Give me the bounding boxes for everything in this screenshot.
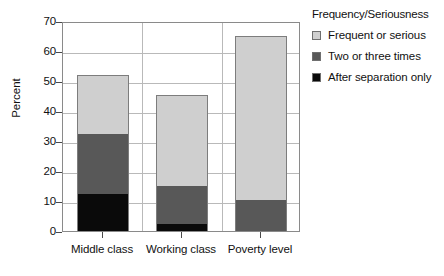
- bar-middle-class: [77, 21, 129, 231]
- y-tick-label: 10: [12, 196, 56, 208]
- y-tick-label: 20: [12, 166, 56, 178]
- y-tick-label: 50: [12, 76, 56, 88]
- legend-items: Frequent or seriousTwo or three timesAft…: [312, 29, 444, 83]
- legend-item: After separation only: [312, 71, 444, 83]
- y-tick-mark: [56, 232, 62, 233]
- y-tick-label: 70: [12, 16, 56, 28]
- bar-segment: [235, 36, 287, 200]
- y-tick-label: 40: [12, 106, 56, 118]
- legend-label: Two or three times: [328, 50, 421, 62]
- bar-segment: [77, 194, 129, 232]
- bar-segment: [235, 200, 287, 232]
- y-tick-label: 0: [12, 226, 56, 238]
- x-tick-mark: [102, 232, 103, 238]
- legend-label: Frequent or serious: [328, 29, 426, 41]
- bar-working-class: [156, 21, 208, 231]
- category-separator: [222, 23, 223, 231]
- y-tick-label: 60: [12, 46, 56, 58]
- legend-item: Two or three times: [312, 50, 444, 62]
- bar-chart: Percent 010203040506070 Middle classWork…: [0, 0, 444, 276]
- y-tick-label: 30: [12, 136, 56, 148]
- bar-poverty-level: [235, 21, 287, 231]
- legend: Frequency/Seriousness Frequent or seriou…: [312, 8, 444, 92]
- category-separator: [142, 23, 143, 231]
- x-tick-mark: [260, 232, 261, 238]
- legend-label: After separation only: [328, 71, 431, 83]
- legend-title: Frequency/Seriousness: [312, 8, 444, 20]
- legend-item: Frequent or serious: [312, 29, 444, 41]
- x-tick-mark: [181, 232, 182, 238]
- plot-area: [62, 22, 300, 232]
- bar-segment: [77, 75, 129, 134]
- legend-swatch: [312, 52, 321, 61]
- y-axis-title: Percent: [10, 58, 22, 138]
- bar-segment: [156, 186, 208, 224]
- bar-segment: [156, 224, 208, 232]
- legend-swatch: [312, 31, 321, 40]
- legend-swatch: [312, 73, 321, 82]
- bar-segment: [156, 95, 208, 187]
- bar-segment: [77, 134, 129, 194]
- x-tick-label: Poverty level: [205, 243, 315, 256]
